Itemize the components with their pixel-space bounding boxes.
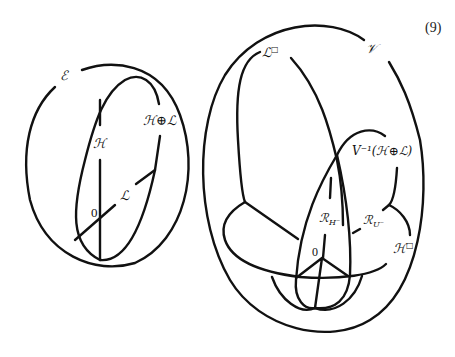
inner-ellipse-hl (76, 77, 160, 260)
l-box-label: ℒ□ (262, 45, 279, 60)
h-box-upper (389, 168, 397, 205)
rh-stub-upper (330, 178, 331, 198)
l-box-descent (291, 58, 343, 225)
outer-label-v: 𝒱 (366, 41, 381, 56)
ru-tick (353, 229, 360, 233)
equation-number: (9) (425, 20, 442, 36)
left-diagram (26, 65, 188, 266)
origin-label-right: 0 (312, 245, 318, 259)
rh-label: ℛH⁻ (319, 211, 340, 227)
outer-oval-v (203, 26, 423, 332)
origin-label-left: 0 (91, 205, 98, 220)
h-line-label: ℋ (93, 136, 108, 151)
l-box-loop (237, 52, 260, 202)
diagram-canvas: (9) ℰ ℋ⊕ℒ ℋ ℒ 0 (0, 0, 455, 357)
ru-label: ℛU⁻ (363, 213, 384, 229)
outer-oval-e (26, 65, 188, 266)
left-lobe (224, 202, 386, 278)
h-box-stub (383, 205, 389, 210)
outer-label-e: ℰ (60, 68, 69, 83)
right-diagram (203, 26, 423, 332)
lens-right (315, 155, 350, 308)
left-junction-branch (245, 202, 298, 239)
preimage-label: V⁻¹(ℋ⊕ℒ) (352, 144, 413, 158)
h-box-lower (389, 205, 410, 235)
l-line-label: ℒ (120, 188, 130, 203)
rh-stub-lower (323, 235, 325, 258)
inner-label-hl: ℋ⊕ℒ (143, 113, 177, 128)
h-box-label: ℋ□ (393, 241, 414, 256)
